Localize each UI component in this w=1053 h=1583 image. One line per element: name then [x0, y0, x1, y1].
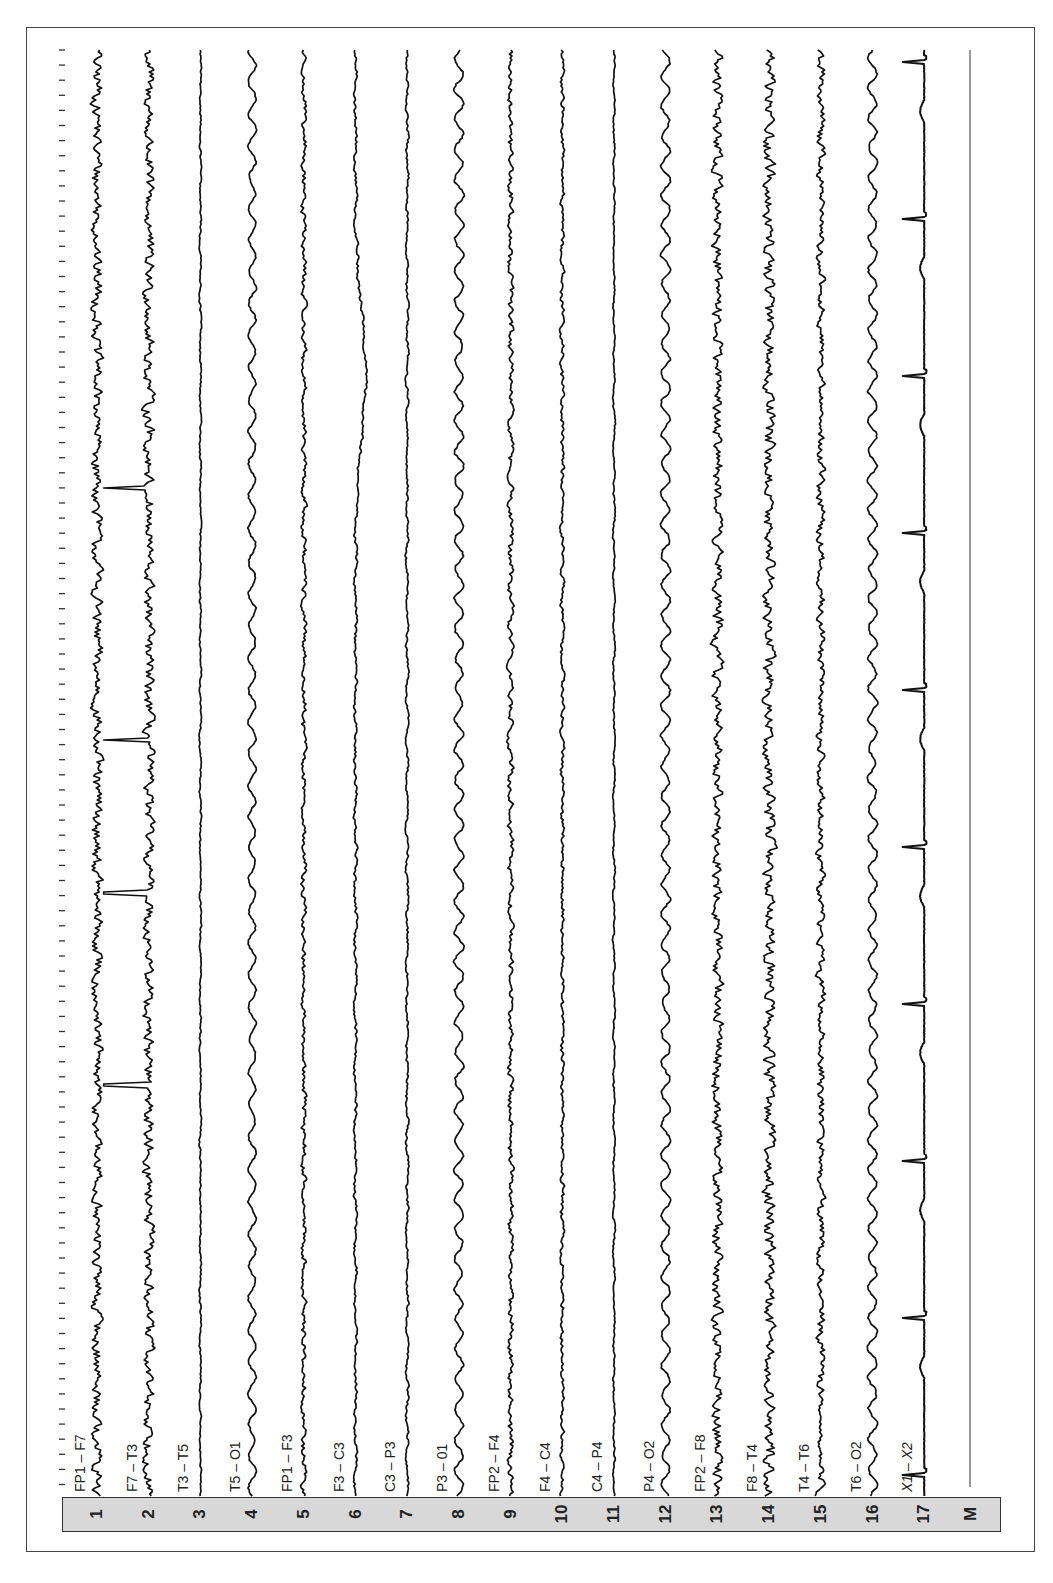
channel-number-15: 15: [806, 1499, 836, 1529]
channel-label-13: FP2 – F8: [692, 1434, 708, 1492]
eeg-trace-ch14: [762, 50, 777, 1496]
time-tick-marks: [59, 50, 65, 1485]
eeg-trace-ch11: [612, 50, 615, 1496]
channel-label-4: T5 – O1: [227, 1441, 243, 1492]
eeg-trace-ch6: [353, 50, 367, 1496]
channel-label-9: FP2 – F4: [486, 1434, 502, 1492]
eeg-trace-ch2: [104, 50, 156, 1496]
channel-label-3: T3 – T5: [175, 1444, 191, 1492]
eeg-trace-ch16: [867, 50, 878, 1496]
channel-label-11: C4 – P4: [589, 1441, 605, 1492]
channel-number-9: 9: [496, 1499, 526, 1529]
channel-number-17: 17: [909, 1499, 939, 1529]
eeg-trace-ch10: [560, 50, 565, 1496]
channel-label-6: F3 – C3: [331, 1442, 347, 1492]
channel-number-13: 13: [702, 1499, 732, 1529]
eeg-trace-ch4: [248, 50, 257, 1496]
eeg-trace-ch17: [903, 50, 927, 1496]
channel-label-7: C3 – P3: [382, 1441, 398, 1492]
eeg-trace-ch9: [507, 50, 515, 1496]
eeg-trace-ch13: [710, 50, 723, 1496]
eeg-trace-group: [90, 50, 926, 1496]
channel-label-8: P3 – 01: [434, 1444, 450, 1492]
channel-label-14: F8 – T4: [744, 1444, 760, 1492]
channel-label-15: T4 – T6: [796, 1444, 812, 1492]
channel-label-5: FP1 – F3: [279, 1434, 295, 1492]
eeg-trace-ch1: [90, 50, 104, 1496]
channel-label-16: T6 – O2: [848, 1441, 864, 1492]
channel-number-12: 12: [651, 1499, 681, 1529]
channel-number-1: 1: [82, 1499, 112, 1529]
channel-label-10: F4 – C4: [537, 1442, 553, 1492]
eeg-trace-ch12: [660, 50, 671, 1496]
channel-number-5: 5: [289, 1499, 319, 1529]
channel-number-3: 3: [185, 1499, 215, 1529]
channel-label-1: FP1 – F7: [72, 1434, 88, 1492]
eeg-traces-canvas: [0, 0, 1053, 1583]
channel-label-2: F7 – T3: [124, 1444, 140, 1492]
eeg-trace-ch15: [815, 50, 826, 1496]
channel-number-8: 8: [444, 1499, 474, 1529]
channel-number-7: 7: [392, 1499, 422, 1529]
channel-label-12: P4 – O2: [641, 1441, 657, 1492]
eeg-trace-ch3: [199, 50, 202, 1496]
eeg-trace-ch8: [453, 50, 464, 1496]
marker-channel-number: M: [956, 1499, 986, 1529]
eeg-trace-ch5: [301, 50, 308, 1496]
eeg-trace-ch7: [405, 50, 409, 1496]
channel-number-2: 2: [134, 1499, 164, 1529]
channel-number-6: 6: [341, 1499, 371, 1529]
channel-number-10: 10: [547, 1499, 577, 1529]
channel-label-17: X1 – X2: [899, 1442, 915, 1492]
channel-number-16: 16: [858, 1499, 888, 1529]
channel-number-4: 4: [237, 1499, 267, 1529]
channel-number-11: 11: [599, 1499, 629, 1529]
channel-number-14: 14: [754, 1499, 784, 1529]
